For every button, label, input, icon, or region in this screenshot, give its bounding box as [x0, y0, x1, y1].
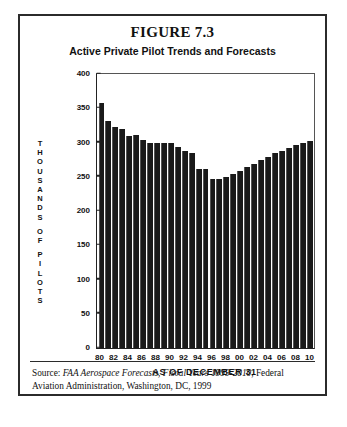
bar-series: [97, 74, 314, 348]
bar: [112, 127, 118, 348]
source-prefix: Source:: [32, 368, 63, 378]
x-tick-label: 94: [193, 353, 202, 362]
y-tick-label: 400: [77, 69, 96, 78]
bar: [293, 145, 299, 348]
bar: [154, 143, 160, 349]
y-tick-mark: [97, 244, 101, 246]
y-tick-label: 100: [77, 274, 96, 283]
bar: [237, 171, 243, 348]
bar: [286, 148, 292, 348]
y-tick-label: 0: [86, 343, 96, 352]
bar: [210, 179, 216, 348]
y-tick-mark: [97, 312, 101, 314]
bar: [189, 153, 195, 348]
bar: [307, 141, 313, 348]
y-tick-label: 150: [77, 240, 96, 249]
y-tick-label: 50: [81, 308, 96, 317]
y-tick-mark: [97, 175, 101, 177]
x-tick-label: 10: [305, 353, 314, 362]
x-tick-label: 82: [109, 353, 118, 362]
y-tick-label: 200: [77, 206, 96, 215]
bar: [175, 147, 181, 348]
x-tick-label: 98: [221, 353, 230, 362]
bar: [251, 164, 257, 348]
bar: [300, 143, 306, 348]
bar: [272, 153, 278, 348]
bar: [182, 151, 188, 348]
x-tick-label: 84: [123, 353, 132, 362]
bar: [223, 177, 229, 348]
bar: [133, 135, 139, 348]
bar: [168, 143, 174, 348]
y-tick-mark: [97, 278, 101, 280]
figure-number: FIGURE 7.3: [20, 24, 325, 41]
x-axis-caption: AS OF DECEMBER 31: [96, 367, 313, 377]
x-tick-label: 80: [95, 353, 104, 362]
x-tick-label: 90: [165, 353, 174, 362]
x-tick-label: 04: [263, 353, 272, 362]
y-tick-mark: [97, 107, 101, 109]
bar: [258, 160, 264, 348]
y-tick-mark: [97, 346, 101, 348]
bar: [119, 129, 125, 348]
bar: [265, 157, 271, 348]
x-tick-label: 86: [137, 353, 146, 362]
y-tick-mark: [97, 209, 101, 211]
x-tick-label: 88: [151, 353, 160, 362]
bar: [203, 169, 209, 348]
x-tick-label: 92: [179, 353, 188, 362]
x-tick-label: 00: [235, 353, 244, 362]
x-tick-label: 96: [207, 353, 216, 362]
y-axis-label: THOUSANDS OF PILOTS: [34, 139, 46, 305]
y-tick-mark: [97, 141, 101, 143]
x-tick-label: 06: [277, 353, 286, 362]
bar: [161, 143, 167, 349]
bar: [216, 179, 222, 348]
y-tick-mark: [97, 72, 101, 74]
bar: [140, 140, 146, 348]
x-axis-ticks: 80828486889092949698000204060810: [96, 353, 313, 367]
plot-region: [96, 73, 315, 349]
bar: [244, 167, 250, 348]
y-tick-label: 250: [77, 171, 96, 180]
figure-title: Active Private Pilot Trends and Forecast…: [20, 45, 325, 57]
bar: [279, 151, 285, 348]
y-tick-label: 300: [77, 137, 96, 146]
bar: [126, 136, 132, 348]
bar: [105, 121, 111, 348]
y-tick-label: 350: [77, 103, 96, 112]
chart-area: THOUSANDS OF PILOTS 05010015020025030035…: [20, 61, 325, 361]
bar: [196, 169, 202, 348]
bar: [230, 174, 236, 348]
bar: [147, 143, 153, 348]
x-tick-label: 02: [249, 353, 258, 362]
x-tick-label: 08: [291, 353, 300, 362]
figure-frame: FIGURE 7.3 Active Private Pilot Trends a…: [18, 14, 327, 396]
